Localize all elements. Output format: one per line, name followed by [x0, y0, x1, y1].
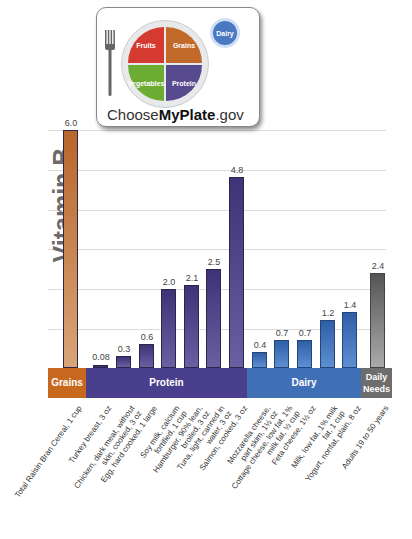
category-grains-label: Grains [51, 377, 83, 389]
bar-dairy-yogurt [342, 312, 357, 368]
plate: Fruits Grains Vegetables Protein [121, 20, 209, 108]
dairy-cup: Dairy [210, 18, 240, 48]
bar-protein-salmon [229, 177, 244, 368]
fork-icon [105, 30, 115, 96]
brand-bold: MyPlate [159, 106, 216, 123]
plate-fruits-label: Fruits [136, 42, 155, 49]
gridline [48, 210, 386, 211]
gridline [48, 170, 386, 171]
bar-value: 1.4 [335, 300, 365, 310]
bar-value: 0.7 [290, 328, 320, 338]
bar-protein-soymilk [161, 289, 176, 368]
category-protein: Protein [86, 368, 247, 398]
bar-grains-cereal [63, 130, 78, 368]
category-daily-needs-label: Daily Needs [362, 371, 392, 395]
bar-protein-tuna [206, 269, 221, 368]
plate-vegetables: Vegetables [128, 65, 164, 101]
gridline [48, 130, 386, 131]
bar-value: 4.8 [222, 165, 252, 175]
bar-daily-needs [370, 273, 385, 368]
brand-suffix: .gov [215, 106, 243, 123]
plate-grains-label: Grains [173, 42, 195, 49]
brand-text: ChooseMyPlate.gov [107, 106, 244, 123]
bar-protein-hamburger [184, 285, 199, 368]
bar-value: 2.5 [199, 257, 229, 267]
plate-grains: Grains [166, 27, 202, 63]
plate-protein-label: Protein [172, 80, 196, 87]
bar-dairy-milk [320, 320, 335, 368]
category-protein-label: Protein [149, 377, 183, 389]
bar-protein-egg [139, 344, 154, 368]
dairy-label: Dairy [216, 30, 234, 37]
category-dairy: Dairy [247, 368, 361, 398]
brand-prefix: Choose [107, 106, 159, 123]
bar-value: 6.0 [56, 118, 86, 128]
plate-vegetables-label: Vegetables [128, 80, 165, 87]
category-daily-needs: Daily Needs [361, 368, 392, 398]
bar-protein-chicken [116, 356, 131, 368]
bar-dairy-feta [297, 340, 312, 368]
plate-fruits: Fruits [128, 27, 164, 63]
category-grains: Grains [48, 368, 86, 398]
plate-protein: Protein [166, 65, 202, 101]
myplate-logo: Fruits Grains Vegetables Protein Dairy C… [96, 7, 260, 127]
bar-value: 2.4 [363, 261, 393, 271]
bar-dairy-mozzarella [252, 352, 267, 368]
bar-value: 0.6 [132, 332, 162, 342]
gridline [48, 249, 386, 250]
bar-value: 0.3 [109, 344, 139, 354]
bar-value: 2.1 [177, 273, 207, 283]
category-dairy-label: Dairy [291, 377, 316, 389]
bar-dairy-cottage [274, 340, 289, 368]
bar-value: 0.4 [245, 340, 275, 350]
